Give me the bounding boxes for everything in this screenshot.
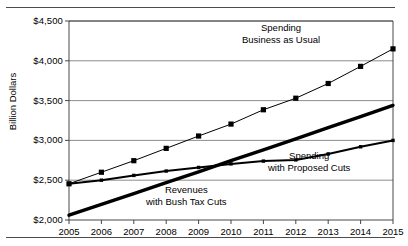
data-point-marker (100, 179, 103, 182)
data-point-marker (67, 182, 70, 185)
data-point-marker (165, 169, 168, 172)
data-point-marker (197, 166, 200, 169)
series-label-line: Spending (268, 150, 350, 162)
series-label-revenues: Revenueswith Bush Tax Cuts (146, 184, 227, 207)
data-point-marker (99, 170, 104, 175)
data-point-marker (164, 146, 169, 151)
series-label-line: with Bush Tax Cuts (146, 196, 227, 208)
data-point-marker (326, 81, 331, 86)
data-point-marker (262, 159, 265, 162)
data-point-marker (359, 145, 362, 148)
data-point-marker (196, 133, 201, 138)
series-label-line: Spending (242, 22, 320, 34)
series-label-line: Revenues (146, 184, 227, 196)
data-point-marker (132, 174, 135, 177)
data-point-marker (391, 139, 394, 142)
data-point-marker (358, 64, 363, 69)
data-point-marker (261, 107, 266, 112)
data-point-marker (228, 121, 233, 126)
series-label-business-as-usual: SpendingBusiness as Usual (242, 22, 320, 45)
data-point-marker (293, 96, 298, 101)
data-point-marker (131, 158, 136, 163)
series-label-line: with Proposed Cuts (268, 162, 350, 174)
series-label-line: Business as Usual (242, 34, 320, 46)
data-point-marker (390, 46, 395, 51)
data-series (66, 46, 395, 215)
series-label-proposed-cuts: Spendingwith Proposed Cuts (268, 150, 350, 173)
